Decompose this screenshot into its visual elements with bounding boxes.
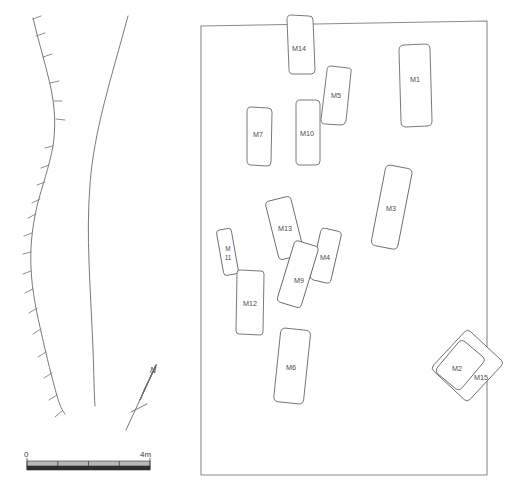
tomb-M3[interactable]: M3: [371, 164, 413, 250]
tomb-M11[interactable]: M 11: [216, 228, 239, 276]
tomb-M6[interactable]: M6: [273, 328, 311, 405]
scale-bar-start-label: 0: [24, 450, 29, 459]
tomb-label: M9: [294, 276, 304, 285]
tomb-M7[interactable]: M7: [247, 107, 272, 166]
terrain-contour-panel: [23, 16, 128, 417]
tomb-label: M7: [253, 130, 263, 139]
tomb-label: M13: [278, 224, 292, 233]
hachured-slope-line: [23, 16, 65, 417]
tomb-label: M15: [474, 373, 488, 382]
tomb-label: M12: [243, 299, 257, 308]
tomb-label: M5: [331, 91, 341, 100]
tomb-M14[interactable]: M14: [287, 15, 315, 74]
tomb-label: M14: [292, 44, 306, 53]
tomb-M12[interactable]: M12: [236, 270, 264, 335]
tomb-M1[interactable]: M1: [399, 44, 432, 127]
north-arrow: N: [126, 365, 157, 430]
slope-hachure-ticks: [23, 16, 65, 417]
site-plan-figure: N 0 4m M14 M1 M5: [0, 0, 510, 489]
scale-bar-end-label: 4m: [140, 450, 151, 459]
tomb-label: M4: [320, 253, 330, 262]
tomb-group: M14 M1 M5 M7 M10 M3 M13: [216, 15, 504, 404]
scale-bar: 0 4m: [24, 450, 151, 470]
tomb-label: M2: [452, 364, 462, 373]
tomb-label: M10: [300, 129, 314, 138]
tomb-M10[interactable]: M10: [296, 100, 320, 165]
tomb-label: M3: [386, 204, 396, 213]
tomb-label: M: [225, 245, 230, 252]
tomb-label-line2: 11: [225, 254, 232, 261]
tomb-label: M6: [286, 363, 296, 372]
tomb-M5[interactable]: M5: [321, 66, 351, 125]
plain-contour-line: [88, 16, 128, 406]
tomb-label: M1: [410, 75, 420, 84]
north-arrow-label: N: [150, 365, 157, 375]
